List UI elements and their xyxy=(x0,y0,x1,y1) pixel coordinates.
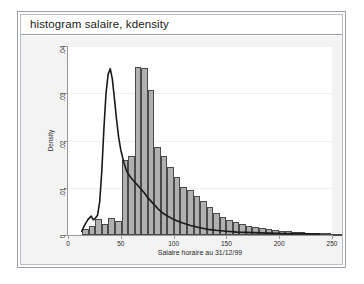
x-axis-title: Salaire horaire au 31/12/99 xyxy=(68,249,332,256)
x-tick-label: 250 xyxy=(322,240,342,247)
kdensity-curve-layer xyxy=(21,36,342,264)
x-tick xyxy=(226,236,227,239)
window-inner-frame: histogram salaire, kdensity 050100150200… xyxy=(20,14,343,265)
x-tick-label: 150 xyxy=(216,240,236,247)
x-tick-label: 200 xyxy=(269,240,289,247)
x-tick-label: 100 xyxy=(164,240,184,247)
x-tick xyxy=(68,236,69,239)
x-tick-label: 50 xyxy=(111,240,131,247)
y-tick-label: .02 xyxy=(59,140,66,158)
x-tick xyxy=(279,236,280,239)
x-tick xyxy=(332,236,333,239)
y-axis-line xyxy=(67,46,68,236)
window-title: histogram salaire, kdensity xyxy=(30,18,169,30)
x-tick xyxy=(174,236,175,239)
y-tick-label: .04 xyxy=(59,46,66,64)
y-tick-label: .01 xyxy=(59,187,66,205)
y-tick-label: 0 xyxy=(59,235,66,253)
kdensity-curve xyxy=(82,69,320,234)
window-title-bar: histogram salaire, kdensity xyxy=(21,15,342,35)
x-axis-line xyxy=(67,235,333,236)
y-axis-title: Density xyxy=(47,120,54,160)
y-tick-label: .03 xyxy=(59,93,66,111)
x-tick xyxy=(121,236,122,239)
graph-window: histogram salaire, kdensity 050100150200… xyxy=(17,11,346,268)
graph-canvas: 0501001502002500.01.02.03.04DensitySalai… xyxy=(21,36,342,264)
